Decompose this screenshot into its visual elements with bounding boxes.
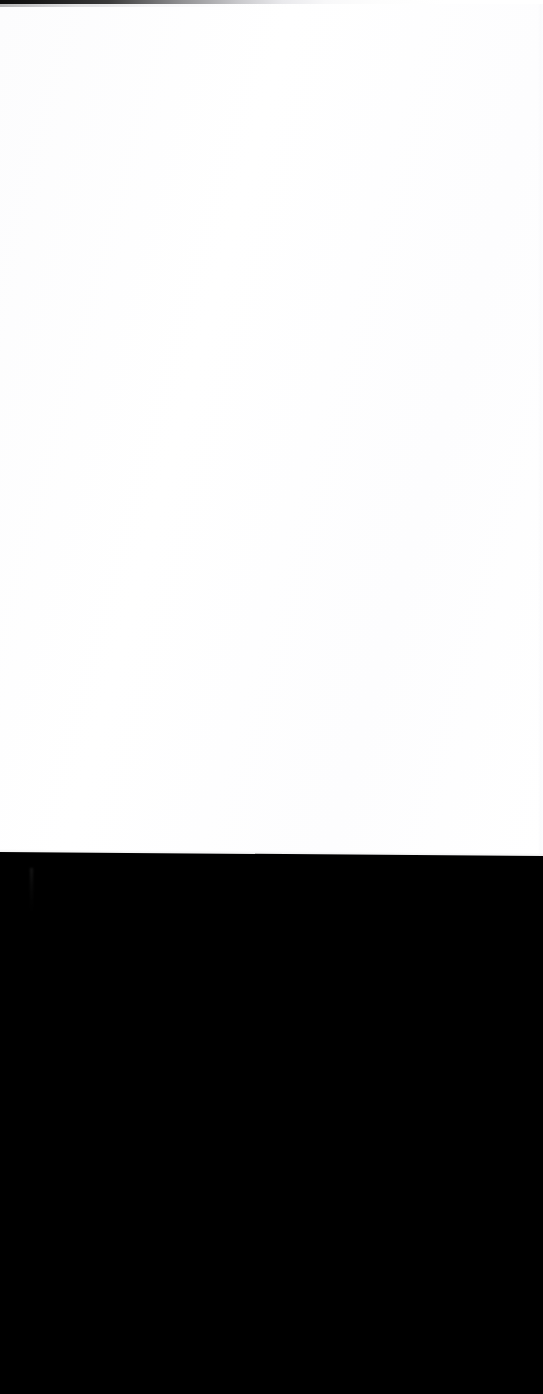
content-pane-tint — [0, 0, 543, 857]
right-edge-strip — [538, 0, 543, 857]
top-edge-band-falloff — [0, 4, 543, 7]
screenshot-canvas — [0, 0, 543, 1394]
blank-content-pane[interactable] — [0, 0, 543, 857]
black-fill-region — [0, 846, 543, 1394]
